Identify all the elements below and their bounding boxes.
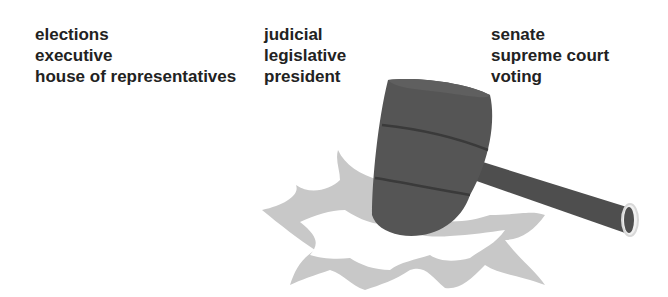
gavel-illustration bbox=[0, 0, 668, 297]
gavel-head bbox=[372, 79, 492, 236]
